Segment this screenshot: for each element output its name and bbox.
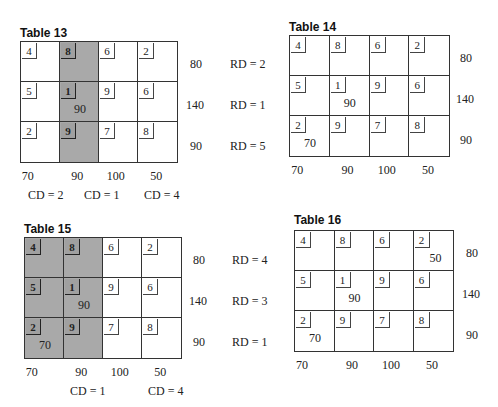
supply-value: 140 [456, 92, 474, 107]
grid-cell: 8 [409, 116, 449, 156]
demand-value: 70 [22, 169, 34, 184]
supply-value: 80 [460, 51, 472, 66]
cost-box: 5 [26, 279, 41, 295]
cost-box: 8 [65, 239, 80, 255]
grid-cell: 190 [330, 76, 370, 116]
grid-cell: 9 [103, 278, 142, 318]
grid-cell: 8 [414, 311, 454, 351]
cost-box: 6 [375, 232, 390, 248]
column-difference: CD = 4 [148, 384, 183, 399]
cost-box: 8 [331, 37, 346, 53]
demand-value: 50 [422, 163, 434, 178]
grid-cell: 8 [64, 238, 103, 278]
column-difference: CD = 1 [84, 188, 119, 203]
supply-value: 80 [193, 253, 205, 268]
grid-cell: 5 [290, 76, 330, 116]
grid-cell: 190 [60, 82, 99, 122]
cost-box: 1 [336, 272, 351, 288]
demand-value: 50 [150, 169, 162, 184]
cost-box: 2 [26, 319, 41, 335]
cost-box: 6 [139, 83, 154, 99]
grid-cell: 6 [374, 231, 414, 271]
cost-box: 2 [296, 312, 311, 328]
cost-box: 7 [371, 117, 386, 133]
table-title: Table 14 [289, 20, 336, 34]
demand-value: 100 [382, 358, 400, 373]
supply-value: 90 [190, 139, 202, 154]
supply-value: 80 [190, 57, 202, 72]
cost-box: 6 [104, 239, 119, 255]
column-difference: CD = 1 [70, 384, 105, 399]
grid-cell: 9 [99, 82, 138, 122]
allocation-value: 70 [304, 136, 316, 151]
row-difference: RD = 1 [232, 335, 267, 350]
cost-box: 6 [100, 43, 115, 59]
cost-box: 2 [139, 43, 154, 59]
grid-cell: 8 [330, 36, 370, 76]
cost-box: 6 [410, 77, 425, 93]
grid-cell: 4 [295, 231, 335, 271]
grid-cell: 7 [374, 311, 414, 351]
allocation-value: 90 [74, 102, 86, 117]
allocation-value: 90 [78, 298, 90, 313]
cost-box: 2 [410, 37, 425, 53]
demand-value: 70 [296, 358, 308, 373]
cost-box: 6 [415, 272, 430, 288]
transport-grid: 4862519096270978 [24, 237, 182, 359]
cost-box: 9 [61, 123, 76, 139]
cost-box: 2 [415, 232, 430, 248]
grid-cell: 4 [290, 36, 330, 76]
supply-value: 140 [189, 294, 207, 309]
cost-box: 1 [331, 77, 346, 93]
demand-value: 90 [341, 163, 353, 178]
demand-value: 90 [71, 169, 83, 184]
cost-box: 7 [375, 312, 390, 328]
grid-cell: 5 [25, 278, 64, 318]
grid-cell: 2 [21, 122, 60, 162]
transport-grid: 486250519096270978 [294, 230, 454, 352]
cost-box: 9 [65, 319, 80, 335]
grid-cell: 9 [330, 116, 370, 156]
grid-cell: 8 [60, 42, 99, 82]
allocation-value: 70 [39, 338, 51, 353]
grid-cell: 2 [138, 42, 177, 82]
grid-cell: 5 [21, 82, 60, 122]
grid-cell: 250 [414, 231, 454, 271]
grid-cell: 9 [64, 318, 103, 358]
supply-value: 140 [462, 287, 480, 302]
cost-box: 5 [291, 77, 306, 93]
cost-box: 2 [22, 123, 37, 139]
table-title: Table 13 [20, 26, 67, 40]
allocation-value: 90 [344, 96, 356, 111]
grid-cell: 270 [295, 311, 335, 351]
row-difference: RD = 5 [230, 139, 265, 154]
cost-box: 8 [61, 43, 76, 59]
cost-box: 4 [296, 232, 311, 248]
supply-value: 140 [186, 98, 204, 113]
allocation-value: 70 [309, 331, 321, 346]
cost-box: 8 [143, 319, 158, 335]
grid-cell: 7 [370, 116, 410, 156]
row-difference: RD = 2 [230, 57, 265, 72]
transport-grid: 4862519096270978 [289, 35, 450, 157]
cost-box: 2 [291, 117, 306, 133]
transport-grid: 48625190962978 [20, 41, 178, 163]
table-title: Table 15 [24, 222, 71, 236]
demand-value: 100 [378, 163, 396, 178]
supply-value: 80 [466, 246, 478, 261]
cost-box: 6 [143, 279, 158, 295]
demand-value: 50 [426, 358, 438, 373]
grid-cell: 2 [142, 238, 181, 278]
cost-box: 4 [291, 37, 306, 53]
grid-cell: 8 [142, 318, 181, 358]
grid-cell: 270 [290, 116, 330, 156]
grid-cell: 9 [374, 271, 414, 311]
cost-box: 8 [139, 123, 154, 139]
row-difference: RD = 3 [232, 294, 267, 309]
grid-cell: 6 [414, 271, 454, 311]
demand-value: 50 [154, 365, 166, 380]
cost-box: 9 [375, 272, 390, 288]
grid-cell: 190 [64, 278, 103, 318]
grid-cell: 7 [99, 122, 138, 162]
grid-cell: 7 [103, 318, 142, 358]
